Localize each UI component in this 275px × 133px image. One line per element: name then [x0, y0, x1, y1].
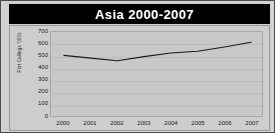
chart-plot-frame: 700 600 500 400 300 200 100 0 Port Calli… [9, 25, 270, 131]
y-tick-100: 100 [20, 100, 48, 106]
x-tick-2006: 2006 [212, 120, 238, 126]
x-axis-tick-labels: 2000 2001 2002 2003 2004 2005 2006 2007 [50, 120, 263, 132]
y-tick-400: 400 [20, 64, 48, 70]
y-axis-title: Port Callings '000s [17, 22, 22, 84]
x-tick-2004: 2004 [158, 120, 184, 126]
x-tick-2007: 2007 [239, 120, 265, 126]
x-tick-2000: 2000 [50, 120, 76, 126]
y-tick-600: 600 [20, 40, 48, 46]
series-polyline [64, 42, 251, 61]
y-tick-300: 300 [20, 76, 48, 82]
x-tick-2002: 2002 [104, 120, 130, 126]
figure-background: Asia 2000-2007 700 600 500 400 300 200 1… [3, 2, 272, 130]
x-tick-2003: 2003 [131, 120, 157, 126]
chart-title: Asia 2000-2007 [85, 7, 194, 22]
x-tick-2001: 2001 [77, 120, 103, 126]
y-tick-0: 0 [20, 113, 48, 119]
y-tick-200: 200 [20, 88, 48, 94]
y-tick-700: 700 [20, 28, 48, 34]
x-tick-2005: 2005 [185, 120, 211, 126]
chart-title-banner: Asia 2000-2007 [9, 4, 270, 24]
chart-figure: Asia 2000-2007 700 600 500 400 300 200 1… [0, 0, 275, 133]
series-line-port-callings [51, 32, 262, 116]
y-axis-tick-labels: 700 600 500 400 300 200 100 0 [20, 26, 48, 122]
plot-area [50, 31, 263, 117]
y-tick-500: 500 [20, 52, 48, 58]
